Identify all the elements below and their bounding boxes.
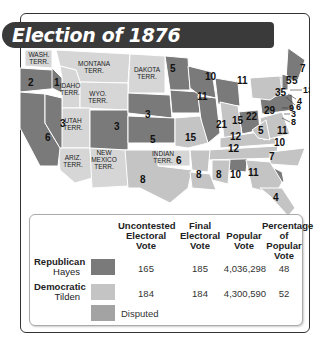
- svg-text:12: 12: [230, 131, 242, 142]
- svg-text:TERR.: TERR.: [84, 67, 104, 74]
- svg-text:5: 5: [292, 75, 298, 86]
- svg-text:TERR.: TERR.: [29, 58, 49, 65]
- svg-text:TERR.: TERR.: [63, 161, 83, 168]
- svg-text:NEW: NEW: [96, 149, 112, 156]
- disputed-swatch: [91, 305, 115, 321]
- svg-text:3: 3: [114, 121, 120, 132]
- svg-text:8: 8: [140, 174, 146, 185]
- svg-text:5: 5: [258, 125, 264, 136]
- minnesota: [165, 56, 190, 90]
- svg-text:11: 11: [237, 75, 248, 86]
- svg-text:UTAH: UTAH: [64, 117, 82, 124]
- dem-uncontested: 184: [118, 288, 174, 299]
- svg-text:TERR.: TERR.: [88, 97, 108, 104]
- us-map: 21 36 335 51110 112115 152229 3555 7511 …: [20, 48, 310, 216]
- header-percentage: Percentage of Popular Vote: [262, 221, 306, 261]
- svg-text:INDIAN: INDIAN: [152, 150, 174, 157]
- svg-text:8: 8: [216, 169, 222, 180]
- svg-text:IDAHO: IDAHO: [60, 82, 81, 89]
- svg-text:TERR.: TERR.: [60, 89, 80, 96]
- svg-text:WASH.: WASH.: [28, 51, 49, 58]
- candidate-name: Tilden: [54, 291, 80, 302]
- svg-text:WYO.: WYO.: [89, 90, 107, 97]
- svg-text:MONTANA: MONTANA: [78, 60, 111, 67]
- svg-text:8: 8: [291, 117, 296, 127]
- legend-table: Uncontested Electoral Vote Final Elector…: [29, 214, 303, 326]
- svg-text:35: 35: [275, 87, 287, 98]
- svg-text:7: 7: [300, 63, 306, 74]
- republican-swatch: [91, 259, 115, 275]
- svg-text:8: 8: [196, 169, 202, 180]
- header-popular: Popular Vote: [226, 231, 262, 251]
- dem-percentage: 52: [262, 288, 306, 299]
- svg-text:15: 15: [185, 132, 197, 143]
- svg-text:6: 6: [176, 155, 182, 166]
- svg-text:4: 4: [273, 192, 279, 203]
- svg-text:7: 7: [269, 151, 275, 162]
- svg-text:TERR.: TERR.: [137, 73, 157, 80]
- svg-text:ARIZ.: ARIZ.: [65, 154, 82, 161]
- svg-text:6: 6: [45, 132, 51, 143]
- svg-text:10: 10: [205, 71, 217, 82]
- svg-text:15: 15: [232, 115, 244, 126]
- candidate-name: Hayes: [53, 266, 80, 277]
- map-title: Election of 1876: [2, 22, 274, 48]
- svg-text:12: 12: [228, 143, 240, 154]
- svg-text:11: 11: [277, 125, 288, 136]
- svg-text:3: 3: [145, 109, 151, 120]
- svg-text:MEXICO: MEXICO: [91, 156, 117, 163]
- svg-text:DAKOTA: DAKOTA: [134, 66, 161, 73]
- svg-text:21: 21: [216, 119, 228, 130]
- rep-uncontested: 165: [118, 263, 174, 274]
- svg-text:22: 22: [246, 111, 258, 122]
- svg-text:TERR.: TERR.: [153, 157, 173, 164]
- svg-text:29: 29: [264, 105, 276, 116]
- colorado: [90, 110, 128, 150]
- dem-final: 184: [176, 288, 224, 299]
- svg-text:11: 11: [248, 167, 259, 178]
- rep-final: 185: [176, 263, 224, 274]
- svg-text:6: 6: [296, 102, 301, 112]
- svg-text:13: 13: [303, 85, 310, 95]
- republican-label: Republican Hayes: [34, 257, 80, 277]
- svg-text:TERR.: TERR.: [94, 163, 114, 170]
- tennessee: [206, 146, 278, 160]
- rep-percentage: 48: [262, 263, 306, 274]
- svg-text:2: 2: [28, 77, 34, 88]
- democratic-label: Democratic Tilden: [34, 282, 80, 302]
- svg-text:5: 5: [170, 63, 176, 74]
- disputed-label: Disputed: [121, 308, 159, 319]
- svg-text:10: 10: [274, 137, 286, 148]
- svg-text:5: 5: [150, 134, 156, 145]
- svg-text:11: 11: [197, 91, 208, 102]
- iowa: [170, 90, 200, 113]
- header-uncontested: Uncontested Electoral Vote: [118, 221, 174, 251]
- svg-text:TERR.: TERR.: [63, 124, 83, 131]
- svg-text:10: 10: [230, 169, 242, 180]
- democratic-swatch: [91, 284, 115, 300]
- header-final: Final Electoral Vote: [176, 221, 224, 251]
